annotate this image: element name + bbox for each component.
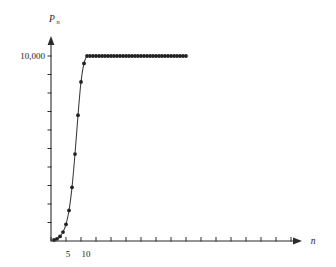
data-point [79, 80, 83, 84]
chart-figure: 10,000 5 10 P n n [0, 0, 336, 267]
data-point [58, 234, 62, 238]
y-tick-label-10000: 10,000 [20, 51, 45, 61]
data-point [70, 185, 74, 189]
logistic-growth-chart: 10,000 5 10 P n n [0, 0, 336, 267]
data-point [76, 113, 80, 117]
data-point [61, 230, 65, 234]
y-axis-title-subscript: n [56, 18, 59, 25]
data-point [67, 209, 71, 213]
data-point [55, 237, 59, 241]
x-axis-title: n [311, 236, 316, 246]
data-point [64, 222, 68, 226]
y-axis-title: P [48, 14, 55, 24]
data-point [82, 62, 86, 66]
x-tick-label-10: 10 [82, 249, 92, 259]
data-point [184, 54, 188, 58]
data-point [73, 152, 77, 156]
x-tick-label-5: 5 [66, 249, 71, 259]
